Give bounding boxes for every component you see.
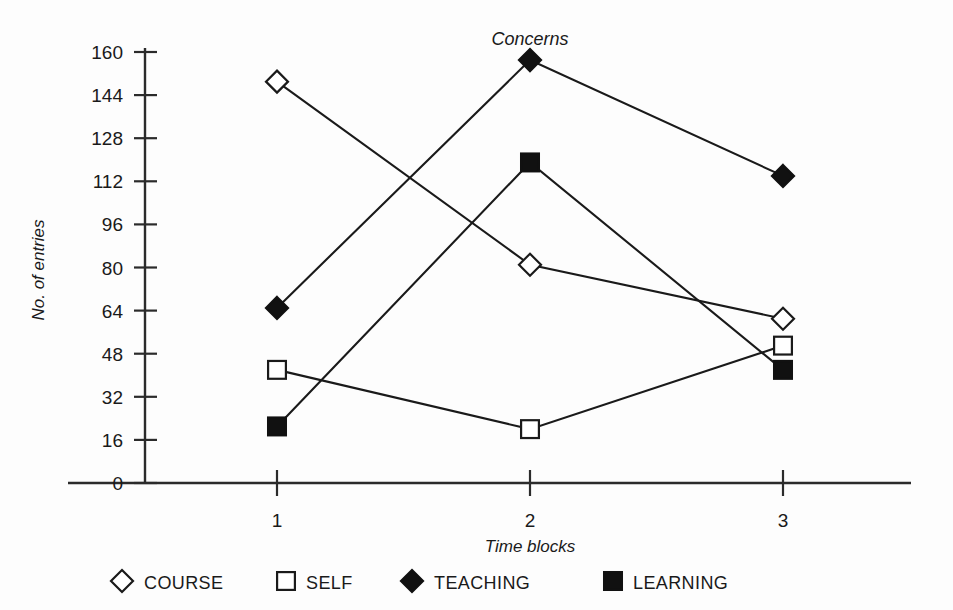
y-axis-title: No. of entries	[29, 219, 48, 321]
y-tick-label-0: 0	[112, 473, 123, 494]
y-tick-label-32: 32	[102, 387, 123, 408]
y-tick-label-112: 112	[93, 171, 123, 192]
legend-label-learning: LEARNING	[633, 573, 728, 593]
legend-item-self[interactable]: SELF	[277, 572, 353, 593]
legend-item-learning[interactable]: LEARNING	[604, 572, 728, 593]
legend-label-self: SELF	[306, 573, 353, 593]
y-tick-label-64: 64	[102, 301, 124, 322]
legend-label-course: COURSE	[144, 573, 223, 593]
y-tick-label-96: 96	[102, 214, 123, 235]
x-tick-label-3: 3	[778, 510, 789, 531]
y-tick-label-48: 48	[102, 344, 123, 365]
chart-legend: COURSE SELF TEACHING LEARNING	[111, 570, 728, 593]
legend-item-teaching[interactable]: TEACHING	[401, 570, 530, 593]
y-tick-label-144: 144	[91, 85, 123, 106]
open-diamond-icon	[111, 570, 133, 592]
concerns-line-chart: Concerns 0 16 32 48 64 80 96 112 128 144…	[0, 0, 953, 610]
series-markers-teaching	[266, 49, 794, 319]
series-line-course	[277, 82, 783, 319]
x-tick-label-1: 1	[272, 510, 283, 531]
chart-title: Concerns	[491, 29, 568, 49]
open-square-icon	[277, 572, 295, 590]
y-tick-label-80: 80	[102, 258, 123, 279]
y-tick-label-128: 128	[91, 128, 123, 149]
series-markers-self	[268, 337, 792, 438]
filled-square-icon	[604, 572, 622, 590]
chart-figure: Concerns 0 16 32 48 64 80 96 112 128 144…	[0, 0, 953, 610]
x-tick-label-2: 2	[525, 510, 536, 531]
legend-label-teaching: TEACHING	[434, 573, 530, 593]
series-markers-learning	[268, 154, 792, 436]
legend-item-course[interactable]: COURSE	[111, 570, 223, 593]
series-line-self	[277, 346, 783, 430]
x-axis-title: Time blocks	[485, 537, 576, 556]
filled-diamond-icon	[401, 570, 423, 592]
series-markers-course	[266, 71, 794, 330]
y-tick-label-160: 160	[91, 42, 123, 63]
y-tick-label-16: 16	[102, 430, 123, 451]
